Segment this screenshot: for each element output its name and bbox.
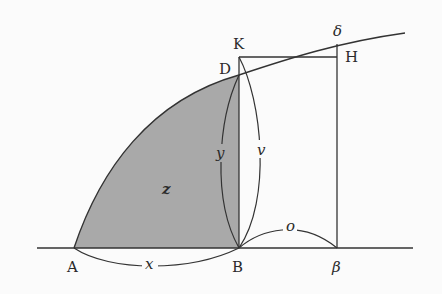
point-label-D: D (219, 62, 231, 77)
arc-label-v: v (257, 143, 265, 158)
point-label-delta: δ (333, 24, 342, 39)
point-label-beta: β (332, 260, 341, 275)
point-label-K: K (233, 37, 244, 52)
arc-label-o: o (286, 219, 295, 234)
point-label-H: H (345, 50, 358, 65)
point-label-A: A (67, 260, 78, 275)
region-label-z: z (162, 182, 171, 197)
geometry-diagram: A B β K D H δ x y v o z (0, 0, 442, 294)
arc-label-x: x (145, 257, 153, 272)
point-label-B: B (232, 260, 243, 275)
arc-label-y: y (216, 146, 224, 161)
